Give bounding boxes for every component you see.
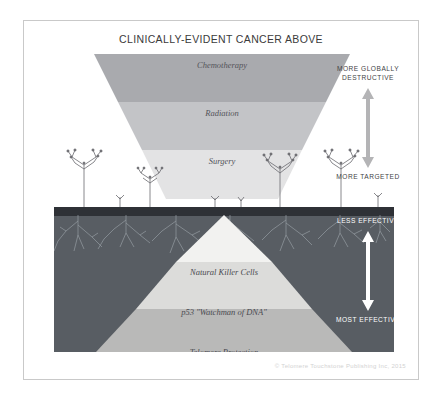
scale-above-ground: MORE GLOBALLY DESTRUCTIVE MORE TARGETED [320, 65, 416, 182]
band-natural-killer-cells [176, 215, 272, 262]
tree-icon [263, 153, 297, 207]
shrub-icon [211, 196, 219, 207]
shrub-icon [238, 197, 244, 207]
figure-frame: CLINICALLY-EVIDENT CANCER ABOVE Chemothe… [23, 20, 419, 380]
double-arrow-icon [360, 231, 376, 311]
tree-icon [137, 167, 163, 207]
scale-below-bottom-label: MOST EFFECTIVE [320, 316, 416, 325]
double-arrow-icon [360, 88, 376, 168]
scale-above-top-label: MORE GLOBALLY DESTRUCTIVE [320, 65, 416, 83]
scale-below-top-label: LESS EFFECTIVE [320, 217, 416, 226]
figure-root: CLINICALLY-EVIDENT CANCER ABOVE Chemothe… [0, 0, 446, 404]
page-title: CLINICALLY-EVIDENT CANCER ABOVE [24, 33, 418, 45]
copyright-notice: © Telomere Touchstone Publishing Inc, 20… [275, 363, 406, 369]
shrub-icon [116, 195, 124, 207]
label-telomere-protection: Telomere Protection [54, 347, 394, 352]
tree-icon [67, 149, 102, 207]
scale-above-bottom-label: MORE TARGETED [320, 173, 416, 182]
shrub-icon [374, 193, 382, 207]
scale-below-ground: LESS EFFECTIVE MOST EFFECTIVE [320, 217, 416, 325]
